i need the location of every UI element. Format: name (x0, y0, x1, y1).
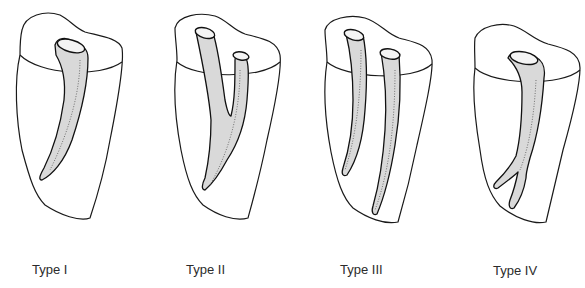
tooth-type-1-drawing (0, 0, 150, 230)
tooth-type-2-panel (145, 0, 305, 230)
tooth-type-4-panel (430, 0, 585, 230)
type-3-label: Type III (340, 262, 383, 277)
type-1-label: Type I (32, 262, 67, 277)
type-4-label: Type IV (493, 263, 537, 278)
tooth-type-1-panel (0, 0, 150, 230)
tooth-type-4-drawing (430, 0, 585, 230)
tooth-type-2-drawing (145, 0, 305, 230)
type-2-label: Type II (186, 262, 225, 277)
